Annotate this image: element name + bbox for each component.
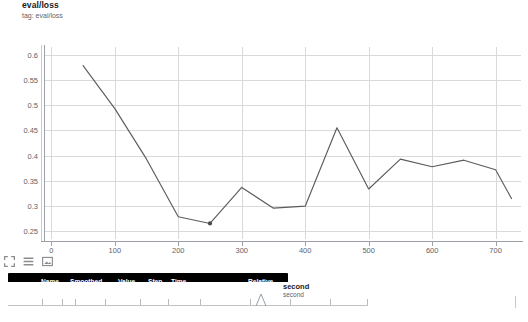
x-tick-label: 600: [426, 246, 439, 255]
x-tick-mark: [178, 242, 179, 246]
y-axis-ticks: 0.250.30.350.40.450.50.550.6: [8, 47, 38, 239]
y-tick-label: 0.45: [12, 126, 38, 135]
series-layer: [45, 47, 521, 239]
x-tick-mark: [115, 242, 116, 246]
x-tick-label: 700: [489, 246, 502, 255]
chart-title: eval/loss: [22, 1, 63, 11]
x-tick-mark: [305, 242, 306, 246]
next-chart-tick: [367, 299, 368, 305]
x-tick-label: 100: [109, 246, 122, 255]
x-tick-label: 300: [235, 246, 248, 255]
next-chart-title: second: [283, 282, 309, 291]
next-chart-tick: [75, 299, 76, 305]
next-chart-tick: [105, 299, 106, 305]
chart-card: eval/loss tag: eval/loss 0.250.30.350.40…: [0, 0, 528, 282]
chart-subtitle: tag: eval/loss: [22, 12, 63, 20]
next-chart-tick: [168, 299, 169, 305]
x-axis-ticks: 0100200300400500600700: [45, 242, 521, 258]
next-chart-right-edge: [515, 296, 516, 308]
x-tick-label: 400: [299, 246, 312, 255]
x-tick-mark: [432, 242, 433, 246]
lines-icon[interactable]: [22, 255, 35, 268]
next-chart-tick: [330, 299, 331, 305]
y-tick-label: 0.35: [12, 176, 38, 185]
next-chart-tick: [200, 299, 201, 305]
hover-data-point: [208, 221, 212, 225]
x-tick-label: 200: [172, 246, 185, 255]
y-tick-label: 0.55: [12, 75, 38, 84]
x-tick-mark: [51, 242, 52, 246]
image-icon[interactable]: [41, 255, 54, 268]
y-axis-secondary-line: [41, 45, 42, 241]
next-chart-tick: [140, 299, 141, 305]
next-chart-panel: second second: [0, 282, 528, 322]
chart-header: eval/loss tag: eval/loss: [22, 1, 63, 20]
y-tick-label: 0.6: [12, 50, 38, 59]
y-tick-label: 0.5: [12, 101, 38, 110]
series-line-eval-loss: [83, 66, 511, 224]
x-tick-label: 500: [362, 246, 375, 255]
x-tick-mark: [369, 242, 370, 246]
next-chart-axis: [8, 305, 368, 306]
next-chart-tick: [290, 299, 291, 305]
next-chart-subtitle: second: [283, 291, 309, 299]
y-tick-label: 0.25: [12, 227, 38, 236]
next-chart-tick: [250, 299, 251, 305]
chart-toolbar: [3, 255, 54, 268]
x-tick-label: 0: [49, 246, 53, 255]
next-chart-header: second second: [283, 282, 309, 300]
plot-area[interactable]: [45, 47, 521, 239]
y-tick-label: 0.3: [12, 202, 38, 211]
y-tick-label: 0.4: [12, 151, 38, 160]
x-tick-mark: [496, 242, 497, 246]
x-tick-mark: [242, 242, 243, 246]
expand-chart-icon[interactable]: [3, 255, 16, 268]
next-chart-tick: [62, 299, 63, 305]
next-chart-spike: [254, 293, 276, 307]
next-chart-tick: [42, 299, 43, 305]
